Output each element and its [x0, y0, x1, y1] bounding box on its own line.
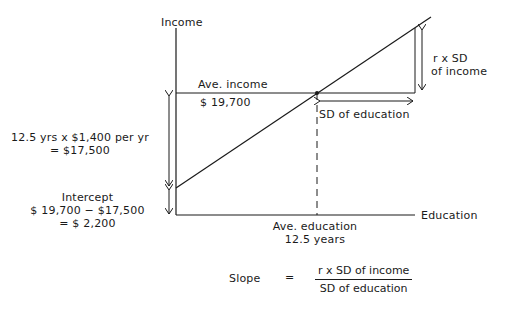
average-education-label: Ave. education: [260, 220, 370, 233]
regression-diagram: [0, 0, 507, 314]
drop-label-line1: 12.5 yrs x $1,400 per yr: [10, 131, 150, 144]
intercept-label: Intercept: [30, 191, 145, 204]
slope-label: Slope: [229, 272, 261, 285]
drop-label-line2: = $17,500: [10, 144, 150, 157]
equals-sign: =: [285, 271, 294, 284]
point-of-averages: [315, 91, 319, 95]
x-axis-label: Education: [421, 209, 478, 222]
average-income-label: Ave. income: [198, 78, 268, 91]
slope-numerator: r x SD of income: [315, 264, 412, 280]
rise-label-line2: of income: [431, 65, 487, 78]
average-education-value: 12.5 years: [260, 233, 370, 246]
average-income-value: $ 19,700: [200, 96, 251, 109]
slope-fraction: r x SD of income SD of education: [315, 264, 412, 295]
run-label: SD of education: [319, 108, 410, 121]
intercept-calc: $ 19,700 − $17,500: [30, 204, 145, 217]
y-axis-label: Income: [161, 16, 203, 29]
rise-label-line1: r x SD: [433, 52, 468, 65]
slope-denominator: SD of education: [315, 280, 412, 295]
intercept-value: = $ 2,200: [30, 217, 145, 230]
